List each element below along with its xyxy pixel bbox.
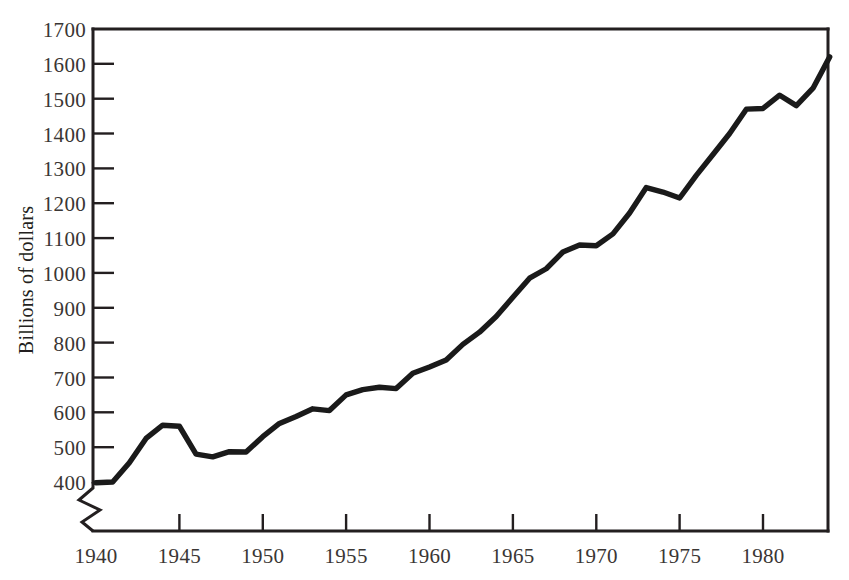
x-axis-label-1960: 1960 [408,544,451,568]
x-axis-label-1945: 1945 [158,544,201,568]
y-axis-label-500: 500 [54,436,86,460]
y-axis-label-1100: 1100 [44,227,86,251]
x-axis-ticks [96,514,763,531]
line-chart: 1700 1600 1500 1400 1300 1200 1100 1000 … [0,0,849,580]
y-axis-label-1200: 1200 [43,192,86,216]
y-axis-ticks [93,29,114,482]
y-axis-label-1600: 1600 [43,53,86,77]
y-axis-label-900: 900 [54,297,86,321]
chart-figure: 1700 1600 1500 1400 1300 1200 1100 1000 … [0,0,849,580]
x-axis-label-1980: 1980 [741,544,784,568]
y-axis-tick-labels: 1700 1600 1500 1400 1300 1200 1100 1000 … [43,18,86,495]
y-axis-label-1300: 1300 [43,157,86,181]
x-axis-label-1975: 1975 [658,544,701,568]
y-axis-label-400: 400 [54,471,86,495]
y-axis-label-800: 800 [54,332,86,356]
x-axis-label-1955: 1955 [324,544,367,568]
x-axis-label-1950: 1950 [241,544,284,568]
y-axis-label-1700: 1700 [43,18,86,42]
y-axis-label-1500: 1500 [43,88,86,112]
chart-axes [79,29,828,531]
y-axis-label-600: 600 [54,401,86,425]
y-axis-title: Billions of dollars [15,206,37,354]
y-axis-label-1000: 1000 [43,262,86,286]
x-axis-tick-labels: 1940 1945 1950 1955 1960 1965 1970 1975 … [74,544,784,568]
x-axis-label-1965: 1965 [491,544,534,568]
data-series-line [96,57,830,483]
y-axis-label-700: 700 [54,367,86,391]
y-axis-label-1400: 1400 [43,123,86,147]
x-axis-label-1940: 1940 [74,544,117,568]
x-axis-label-1970: 1970 [575,544,618,568]
